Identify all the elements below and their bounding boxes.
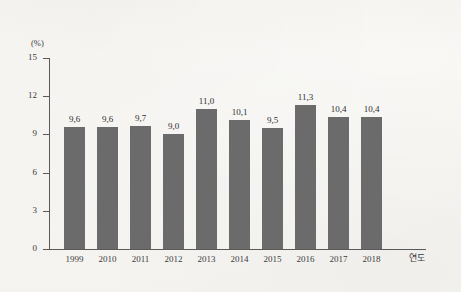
- x-axis-line: [49, 249, 426, 250]
- bar: [163, 134, 184, 249]
- x-axis-tick-label: 1999: [58, 254, 91, 264]
- bar-slot: 9,6: [91, 58, 124, 249]
- x-axis-tick-label: 2018: [355, 254, 388, 264]
- plot-area: (%) 03691215 9,69,69,79,011,010,19,511,3…: [0, 0, 461, 292]
- x-axis-tick-label: 2016: [289, 254, 322, 264]
- bar: [130, 126, 151, 250]
- y-axis-unit-label: (%): [31, 39, 44, 48]
- bar-value-label: 10,1: [223, 107, 256, 117]
- bar-slot: 11,0: [190, 58, 223, 249]
- bar-value-label: 10,4: [322, 104, 355, 114]
- bar-slot: 9,0: [157, 58, 190, 249]
- bar: [196, 109, 217, 249]
- bar: [328, 117, 349, 249]
- bar-value-label: 9,6: [91, 114, 124, 124]
- y-axis-tick: 3: [0, 211, 49, 212]
- y-axis-tick-label: 3: [7, 206, 37, 215]
- bar-series: 9,69,69,79,011,010,19,511,310,410,4: [49, 58, 426, 249]
- bar-value-label: 11,3: [289, 92, 322, 102]
- y-axis-tick-label: 12: [7, 91, 37, 100]
- x-axis-title: 연도: [409, 253, 425, 263]
- bar-slot: 10,4: [322, 58, 355, 249]
- x-axis-tick-label: 2011: [124, 254, 157, 264]
- bar-slot: 10,4: [355, 58, 388, 249]
- y-axis-tick-label: 6: [7, 168, 37, 177]
- bar-value-label: 11,0: [190, 96, 223, 106]
- bar-slot: 9,6: [58, 58, 91, 249]
- bar-value-label: 9,5: [256, 115, 289, 125]
- y-axis-tick-label: 0: [7, 244, 37, 253]
- y-axis-tick-label: 15: [7, 53, 37, 62]
- bar: [361, 117, 382, 249]
- y-axis-tick-label: 9: [7, 129, 37, 138]
- bar-value-label: 10,4: [355, 104, 388, 114]
- y-axis-tick: 0: [0, 249, 49, 250]
- x-axis-tick-label: 2013: [190, 254, 223, 264]
- x-axis-tick-label: 2010: [91, 254, 124, 264]
- bar-slot: 9,7: [124, 58, 157, 249]
- x-axis-tick-label: 2015: [256, 254, 289, 264]
- y-axis-tick: 9: [0, 134, 49, 135]
- x-axis-tick-label: 2012: [157, 254, 190, 264]
- y-axis-tick: 12: [0, 96, 49, 97]
- bar-value-label: 9,6: [58, 114, 91, 124]
- bar: [295, 105, 316, 249]
- bar-slot: 9,5: [256, 58, 289, 249]
- bar-value-label: 9,0: [157, 121, 190, 131]
- bar: [262, 128, 283, 249]
- y-axis-tick: 15: [0, 58, 49, 59]
- bar: [64, 127, 85, 249]
- y-axis-tick: 6: [0, 173, 49, 174]
- bar: [229, 120, 250, 249]
- x-axis-tick-label: 2017: [322, 254, 355, 264]
- bar-slot: 11,3: [289, 58, 322, 249]
- chart-figure: (%) 03691215 9,69,69,79,011,010,19,511,3…: [0, 0, 461, 292]
- bar-slot: 10,1: [223, 58, 256, 249]
- x-axis-tick-label: 2014: [223, 254, 256, 264]
- bar: [97, 127, 118, 249]
- bar-value-label: 9,7: [124, 113, 157, 123]
